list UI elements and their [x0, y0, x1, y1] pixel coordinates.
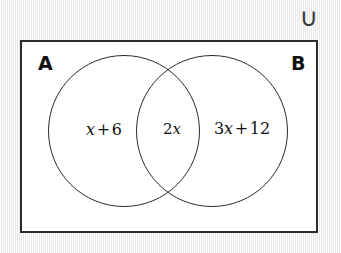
region-int-coefficient: 2 [163, 120, 173, 138]
region-label-intersection: 2x [150, 122, 194, 137]
set-label-a: A [38, 54, 53, 73]
region-label-a-only: x + 6 [66, 122, 142, 138]
region-b-variable: x [224, 119, 233, 138]
region-a-constant: 6 [112, 120, 122, 139]
region-int-variable: x [173, 120, 181, 138]
region-label-b-only: 3x + 12 [196, 121, 288, 137]
region-b-constant: 12 [250, 119, 270, 138]
region-b-operator: + [235, 119, 248, 138]
universal-set-symbol: ∪ [296, 2, 322, 34]
region-b-coefficient: 3 [214, 119, 224, 138]
venn-diagram-canvas: ∪ A B x + 6 2x 3x + 12 [0, 0, 341, 253]
region-a-operator: + [97, 120, 110, 139]
set-label-b: B [291, 54, 305, 73]
region-a-variable: x [86, 120, 95, 139]
